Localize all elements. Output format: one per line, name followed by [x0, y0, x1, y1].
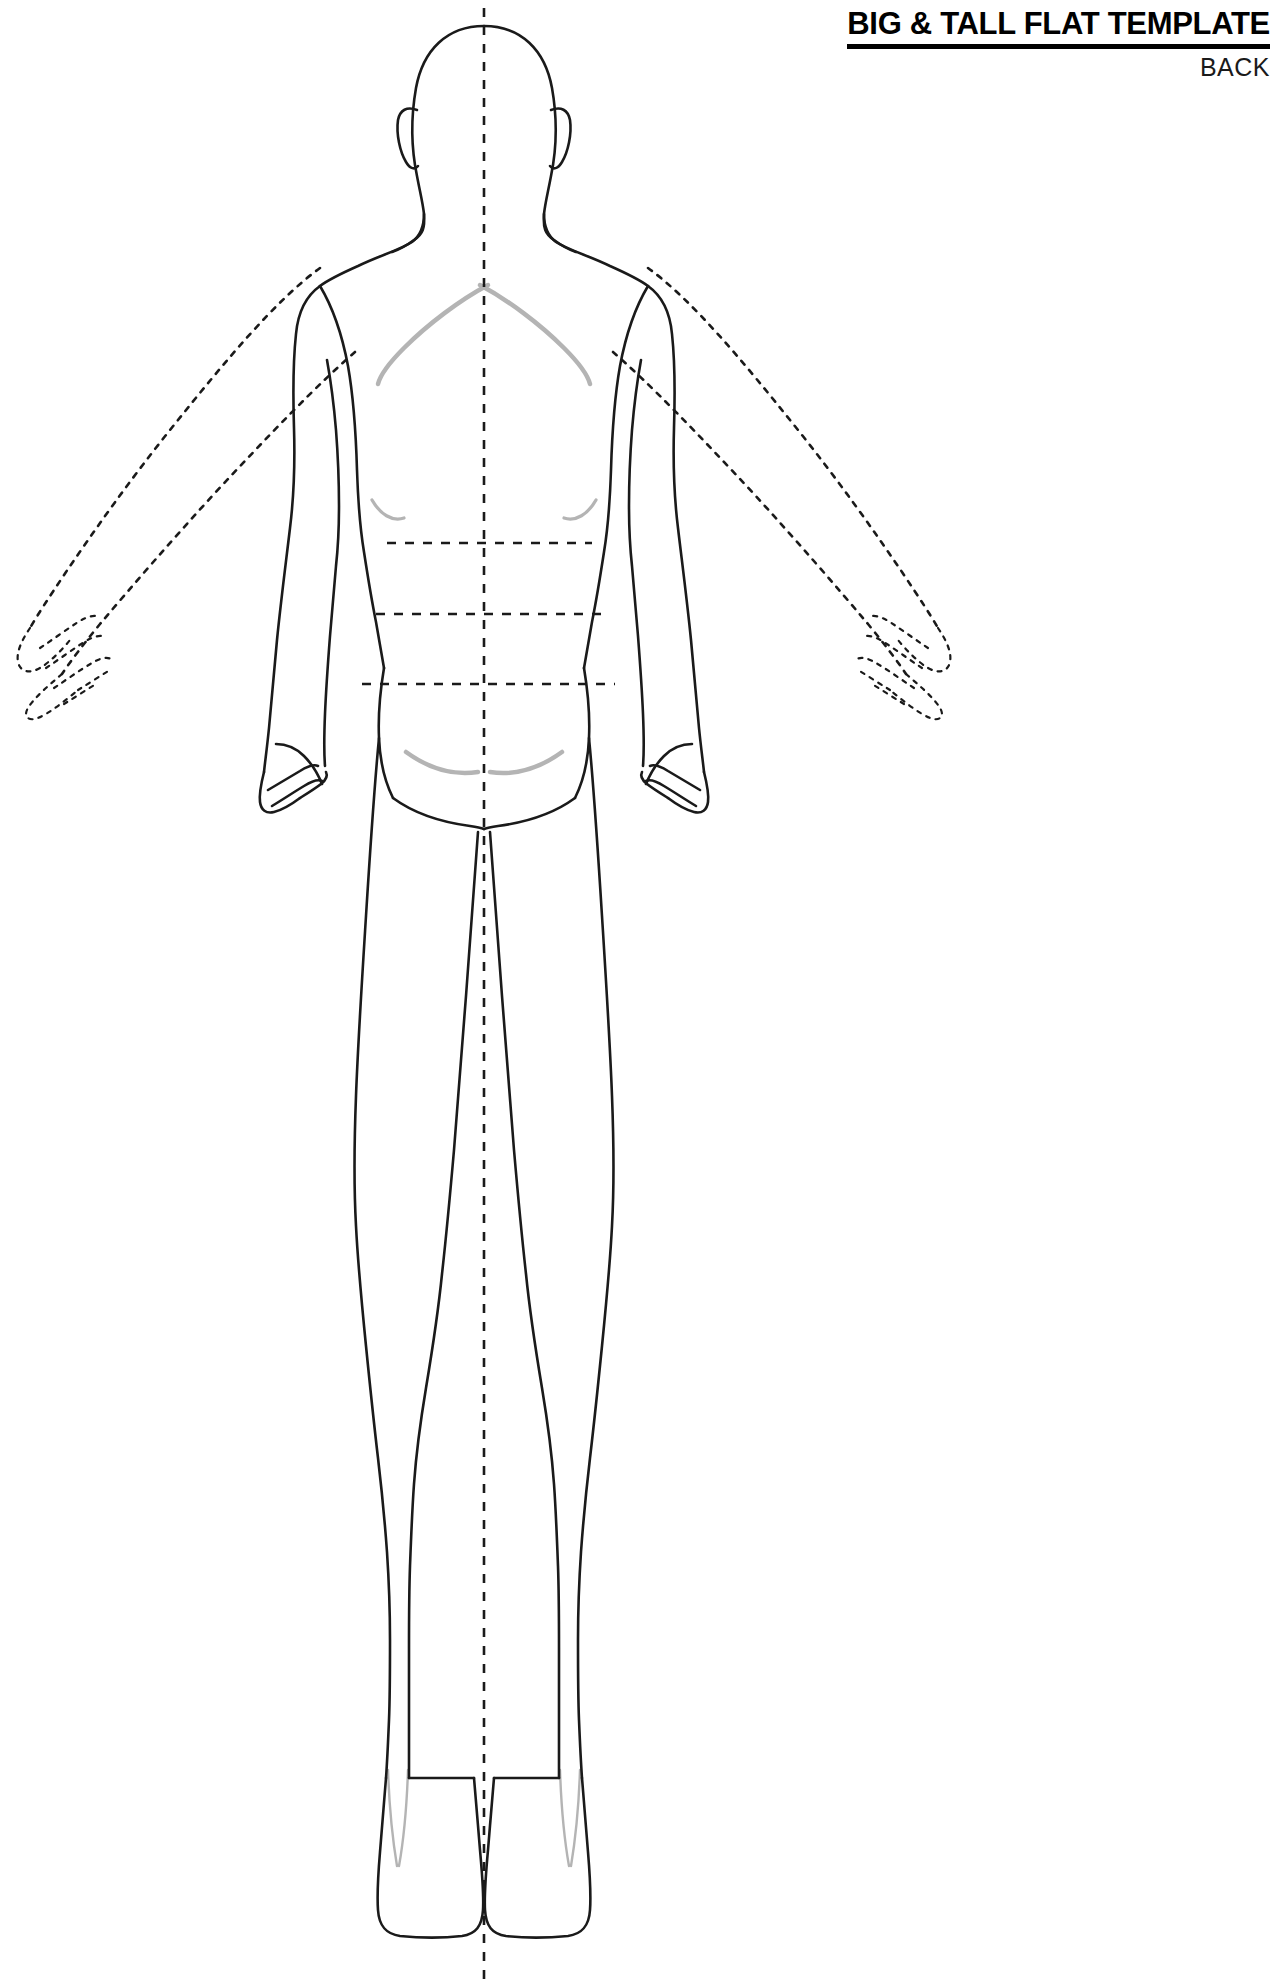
right-elbow-crease: [564, 500, 596, 519]
left-arm-outer: [264, 286, 320, 772]
crotch-right: [484, 798, 575, 829]
right-foot: [485, 1778, 591, 1938]
left-gluteal-fold: [406, 752, 478, 773]
ghost-arm-left: [18, 268, 355, 719]
ghost-arm-right: [613, 268, 950, 719]
right-arm-inner: [629, 360, 644, 766]
right-shoulder-blade: [480, 285, 590, 384]
head-outline-right: [484, 26, 576, 252]
left-foot: [378, 1778, 484, 1938]
right-leg-inner: [490, 832, 559, 1778]
left-arm-inner: [324, 360, 339, 766]
hip-left: [379, 668, 393, 798]
body-figure-back-view: [0, 0, 1278, 1988]
hip-right: [575, 668, 589, 798]
torso-left-side: [320, 286, 384, 668]
right-leg-outer: [578, 738, 614, 1778]
right-achilles-line-outer: [571, 1770, 580, 1866]
torso-right-side: [584, 286, 648, 668]
right-hand-fingers-1: [650, 765, 700, 790]
left-hand-fingers-1: [268, 765, 318, 790]
left-leg-outer: [355, 738, 391, 1778]
left-achilles-line-outer: [388, 1770, 397, 1866]
right-gluteal-fold: [490, 752, 562, 773]
neck-right: [544, 214, 648, 286]
neck-left: [320, 214, 424, 286]
left-shoulder-blade: [378, 285, 488, 384]
right-arm-outer: [648, 286, 704, 772]
right-achilles-line-inner: [560, 1770, 569, 1866]
template-page: BIG & TALL FLAT TEMPLATE BACK: [0, 0, 1278, 1988]
crotch-left: [393, 798, 484, 829]
left-elbow-crease: [372, 500, 404, 519]
left-achilles-line-inner: [399, 1770, 408, 1866]
left-leg-inner: [409, 832, 478, 1778]
head-outline: [392, 26, 484, 252]
